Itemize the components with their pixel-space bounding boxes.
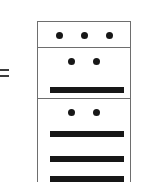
stacked-cells-diagram <box>0 0 151 182</box>
cell-middle-dot-row <box>38 58 130 65</box>
bar-mark <box>50 131 124 137</box>
dot-icon <box>106 32 113 39</box>
equals-sign <box>0 69 9 82</box>
cell-stack <box>37 21 131 182</box>
bar-mark <box>50 87 124 93</box>
cell-bottom <box>38 99 130 182</box>
bar-mark <box>50 156 124 162</box>
dot-icon <box>56 32 63 39</box>
dot-icon <box>68 58 75 65</box>
cell-top <box>38 22 130 48</box>
bar-mark <box>50 176 124 182</box>
equals-sign-stroke-top <box>0 69 9 71</box>
cell-middle <box>38 48 130 99</box>
cell-bottom-dot-row <box>38 109 130 116</box>
equals-sign-stroke-bottom <box>0 75 9 77</box>
dot-icon <box>93 58 100 65</box>
dot-icon <box>81 32 88 39</box>
dot-icon <box>68 109 75 116</box>
dot-icon <box>93 109 100 116</box>
cell-top-dot-row <box>38 32 130 39</box>
